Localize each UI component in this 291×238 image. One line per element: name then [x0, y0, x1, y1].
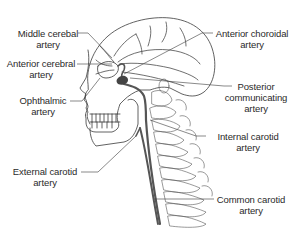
carotid-siphon-fill	[117, 76, 129, 85]
leader-internal-carotid	[150, 120, 206, 136]
leader-external-carotid	[81, 136, 136, 172]
label-external-carotid-artery: External carotid artery	[13, 166, 77, 188]
leader-ophthalmic	[70, 78, 100, 101]
label-ophthalmic-artery: Ophthalmic artery	[19, 95, 66, 117]
label-anterior-choroidal-artery: Anterior choroidal artery	[216, 28, 289, 50]
label-anterior-cerebral-artery: Anterior cerebral artery	[7, 58, 76, 80]
label-posterior-communicating-artery: Posterior communicating artery	[225, 81, 288, 114]
cerebral-branches	[96, 22, 200, 86]
teeth	[90, 114, 120, 128]
cervical-vertebrae	[150, 79, 212, 227]
skull-outline	[85, 18, 215, 132]
label-common-carotid-artery: Common carotid artery	[217, 194, 285, 216]
label-internal-carotid-artery: Internal carotid artery	[217, 131, 278, 153]
face-profile	[80, 50, 90, 124]
label-middle-cerebral-artery: Middle cerebal artery	[18, 28, 78, 50]
